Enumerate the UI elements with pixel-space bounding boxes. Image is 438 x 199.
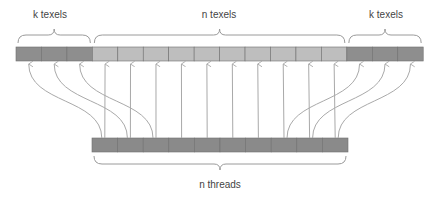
halo-texel-cell <box>41 47 66 61</box>
texel-cell <box>245 47 270 61</box>
thread-cell <box>271 138 297 152</box>
brace-n-threads <box>94 156 346 170</box>
straight-arrow <box>283 64 284 138</box>
texel-cell <box>194 47 219 61</box>
thread-cell <box>169 138 195 152</box>
thread-texel-diagram <box>0 0 438 199</box>
straight-arrow <box>258 64 259 138</box>
brace-n-texels <box>94 29 345 43</box>
texel-cell <box>296 47 321 61</box>
halo-texel-cell <box>16 47 41 61</box>
thread-cell <box>220 138 246 152</box>
thread-cell <box>246 138 272 152</box>
thread-cell <box>92 138 118 152</box>
label-left-k-texels: k texels <box>33 9 67 20</box>
thread-cell <box>143 138 169 152</box>
texel-cell <box>143 47 168 61</box>
halo-texel-cell <box>372 47 397 61</box>
texel-cell <box>92 47 117 61</box>
texel-cell <box>321 47 346 61</box>
texel-cell <box>271 47 296 61</box>
thread-cell <box>297 138 323 152</box>
label-n-threads: n threads <box>199 179 241 190</box>
label-n-texels: n texels <box>202 9 236 20</box>
thread-cell <box>194 138 220 152</box>
thread-cell <box>118 138 144 152</box>
brace-left-k-texels <box>18 29 90 43</box>
brace-right-k-texels <box>349 29 421 43</box>
halo-texel-cell <box>67 47 92 61</box>
halo-texel-cell <box>347 47 372 61</box>
label-right-k-texels: k texels <box>369 9 403 20</box>
straight-arrow <box>309 64 310 138</box>
texel-cell <box>118 47 143 61</box>
straight-arrow <box>334 64 335 138</box>
halo-texel-cell <box>398 47 423 61</box>
texel-cell <box>220 47 245 61</box>
thread-cell <box>322 138 348 152</box>
texel-cell <box>169 47 194 61</box>
